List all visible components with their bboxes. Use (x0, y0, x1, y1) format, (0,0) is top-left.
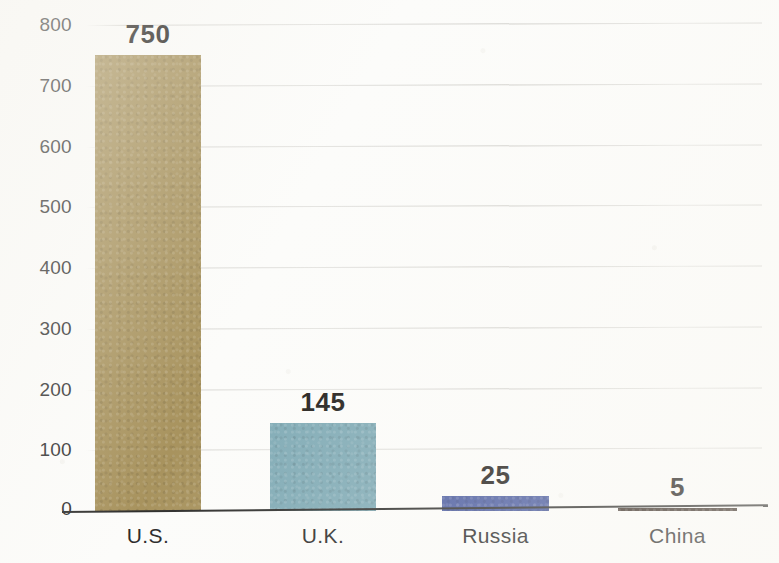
y-tick-label-700: 700 (0, 75, 72, 97)
x-tick-label-china: China (592, 524, 763, 548)
bar-texture (95, 55, 201, 511)
y-tick-label-300: 300 (0, 318, 72, 340)
bar-value-label-u-s: 750 (95, 19, 201, 50)
bar-value-label-china: 5 (618, 472, 737, 503)
y-tick-label-200: 200 (0, 379, 72, 401)
y-tick-label-400: 400 (0, 257, 72, 279)
plot-area: 0100200300400500600700800 750U.S.145U.K.… (0, 0, 779, 563)
bar-u-k[interactable] (270, 423, 376, 511)
bar-chart: 0100200300400500600700800 750U.S.145U.K.… (0, 0, 779, 563)
y-tick-label-500: 500 (0, 196, 72, 218)
bar-value-label-russia: 25 (442, 460, 549, 491)
bar-china[interactable] (618, 508, 737, 511)
bar-u-s[interactable] (95, 55, 201, 511)
bar-texture (618, 508, 737, 511)
y-tick-label-0: 0 (0, 498, 72, 520)
y-tick-label-800: 800 (0, 14, 72, 36)
y-tick-label-600: 600 (0, 136, 72, 158)
x-tick-label-russia: Russia (416, 524, 575, 548)
bar-value-label-u-k: 145 (270, 387, 376, 418)
x-tick-label-u-s: U.S. (69, 524, 227, 548)
x-tick-label-u-k: U.K. (244, 524, 402, 548)
y-tick-label-100: 100 (0, 439, 72, 461)
bar-texture (270, 423, 376, 511)
